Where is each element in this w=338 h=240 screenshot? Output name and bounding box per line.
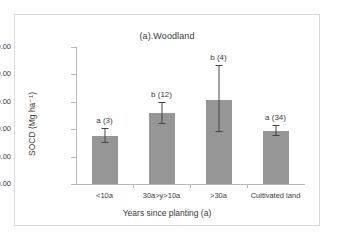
error-bar-cap-lower	[101, 142, 108, 143]
bar-annotation: a (3)	[96, 116, 112, 125]
x-tick-mark	[247, 184, 248, 188]
y-axis-title: SOCD (Mg ha⁻¹)	[27, 59, 37, 189]
error-bar-cap-upper	[272, 125, 279, 126]
bar[interactable]	[92, 136, 118, 184]
y-tick-label: 20.00	[0, 124, 11, 133]
x-axis-label: 30a>y>10a	[133, 191, 190, 200]
y-tick-label-wrap: 0.00	[15, 184, 77, 185]
y-tick-label-wrap: 50.00	[15, 47, 77, 48]
y-tick-label: 40.00	[0, 69, 11, 78]
error-bar-cap-upper	[215, 65, 222, 66]
error-bar-cap-upper	[158, 102, 165, 103]
error-bar-cap-upper	[101, 128, 108, 129]
y-tick-label-wrap: 40.00	[15, 74, 77, 75]
y-tick-label: 0.00	[0, 179, 11, 188]
y-tick-label-wrap: 10.00	[15, 157, 77, 158]
error-bar-cap-lower	[272, 135, 279, 136]
bar-group[interactable]: b (4)	[190, 47, 247, 184]
bar-group[interactable]: b (12)	[133, 47, 190, 184]
bar-group[interactable]: a (3)	[76, 47, 133, 184]
error-bar	[104, 129, 105, 143]
bar-annotation: b (12)	[151, 90, 172, 99]
y-tick-label: 10.00	[0, 152, 11, 161]
bar-annotation: a (34)	[265, 113, 286, 122]
bar[interactable]	[263, 131, 289, 184]
y-tick-label: 50.00	[0, 42, 11, 51]
x-axis-label: <10a	[76, 191, 133, 200]
bar-annotation: b (4)	[210, 53, 226, 62]
x-tick-mark	[133, 184, 134, 188]
y-tick-label-wrap: 20.00	[15, 129, 77, 130]
x-axis-title: Years since planting (a)	[15, 208, 319, 218]
figure-frame: (a).Woodland SOCD (Mg ha⁻¹) 0.0010.0020.…	[14, 14, 320, 226]
error-bar-cap-lower	[215, 131, 222, 132]
x-axis-label: Cultivated land	[247, 191, 304, 200]
error-bar	[161, 103, 162, 124]
chart-title: (a).Woodland	[15, 31, 319, 41]
y-tick-label-wrap: 30.00	[15, 102, 77, 103]
y-tick-label: 30.00	[0, 97, 11, 106]
error-bar	[218, 66, 219, 132]
error-bar-cap-lower	[158, 123, 165, 124]
x-tick-mark	[190, 184, 191, 188]
bar-group[interactable]: a (34)	[247, 47, 304, 184]
x-axis-label: >30a	[190, 191, 247, 200]
plot-area: a (3)b (12)b (4)a (34)	[76, 47, 304, 184]
